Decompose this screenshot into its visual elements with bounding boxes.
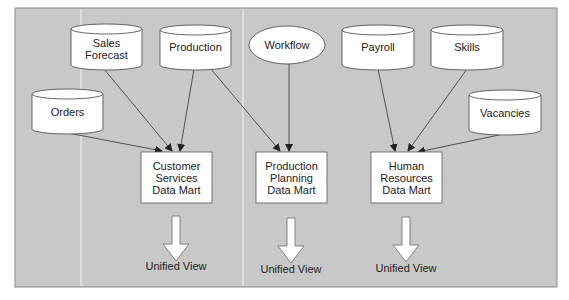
label-production: Production (160, 34, 231, 60)
label-sales-forecast: Sales Forecast (71, 34, 142, 64)
label-orders: Orders (32, 99, 103, 125)
label-human-resources-data-mart: Human Resources Data Mart (371, 152, 442, 203)
label-production-planning-data-mart: Production Planning Data Mart (256, 152, 327, 203)
label-customer-services-data-mart: Customer Services Data Mart (141, 152, 212, 203)
label-workflow: Workflow (249, 38, 325, 52)
label-unified-view-customer-services: Unified View (131, 260, 221, 272)
label-unified-view-production-planning: Unified View (246, 263, 336, 275)
label-skills: Skills (431, 34, 503, 60)
label-payroll: Payroll (342, 34, 414, 60)
label-vacancies: Vacancies (469, 100, 541, 126)
label-unified-view-human-resources: Unified View (361, 262, 451, 274)
